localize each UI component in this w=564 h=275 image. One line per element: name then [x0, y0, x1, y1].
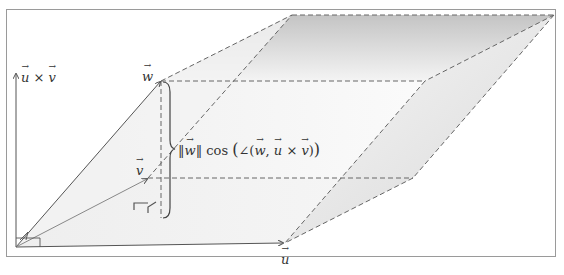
cross-product-label: u × v — [21, 71, 56, 84]
u-label: u — [281, 253, 289, 266]
height-annotation: ‖w‖ cos (∠(w, u × v)) — [178, 142, 320, 158]
w-label: w — [142, 70, 153, 83]
v-label: v — [136, 164, 143, 177]
diagram-canvas: w v u u × v ‖w‖ cos (∠(w, u × v)) — [0, 0, 564, 275]
